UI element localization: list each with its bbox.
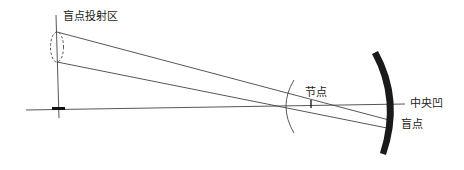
blind-spot-projection-label: 盲点投射区 <box>63 11 118 22</box>
lens-arc <box>286 80 294 133</box>
eye-optics-diagram <box>0 0 464 170</box>
lower-ray <box>57 62 387 128</box>
fixation-marker <box>52 107 65 110</box>
nodal-point-label: 节点 <box>305 87 327 98</box>
retina-arc <box>372 51 394 155</box>
projection-plane-line <box>56 15 59 118</box>
blind-spot-label: 盲点 <box>401 119 423 130</box>
fovea-label: 中央凹 <box>410 98 443 109</box>
